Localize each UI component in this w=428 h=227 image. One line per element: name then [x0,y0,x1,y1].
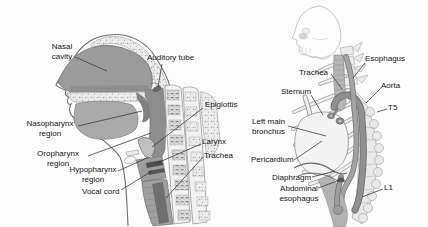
head-sagittal-illustration [56,34,220,226]
label-aorta: Aorta [381,81,400,91]
label-l1: L1 [384,183,393,193]
label-nasopharynx-region: Nasopharynx region [22,119,78,138]
label-epiglottis: Epiglottis [205,100,237,110]
label-larynx: Larynx [202,137,226,147]
anatomy-illustration-svg [0,0,428,227]
label-abdominal-esophagus: Abdominal esophagus [273,184,325,203]
label-trachea-left: Trachea [204,151,233,161]
anatomy-figure: Nasal cavity Auditory tube Epiglottis Na… [0,0,428,227]
label-esophagus: Esophagus [365,54,405,64]
label-pericardium: Pericardium [251,155,294,165]
label-nasal-cavity: Nasal cavity [44,42,80,61]
label-diaphragm: Diaphragm [272,173,311,183]
label-sternum: Sternum [281,87,311,97]
label-trachea-right: Trachea [299,68,328,78]
label-t5: T5 [388,103,397,113]
label-auditory-tube: Auditory tube [147,53,194,63]
label-vocal-cord: Vocal cord [82,187,119,197]
label-left-main-bronchus: Left main bronchus [252,117,285,136]
label-hypopharynx-region: Hypopharynx region [65,165,121,184]
